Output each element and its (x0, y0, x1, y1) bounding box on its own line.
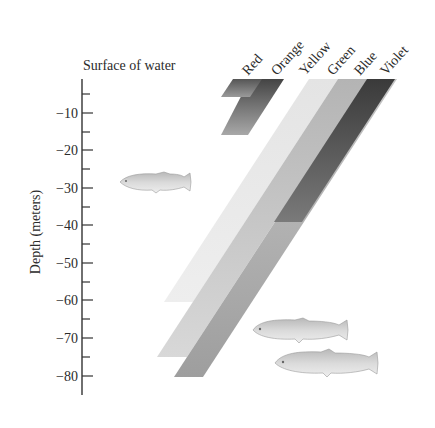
fish-icon (253, 318, 348, 343)
tick-label: −30 (56, 181, 78, 196)
fish-icon (120, 172, 191, 193)
band-label-red: Red (239, 51, 265, 78)
band-green (157, 79, 368, 357)
light-penetration-diagram: Surface of water −10 −20 (0, 0, 435, 428)
surface-label: Surface of water (83, 58, 176, 73)
y-axis-label: Depth (meters) (28, 189, 44, 274)
tick-label: −20 (56, 143, 78, 158)
tick-label: −60 (56, 293, 78, 308)
tick-label: −10 (56, 106, 78, 121)
tick-label: −70 (56, 331, 78, 346)
tick-label: −80 (56, 369, 78, 384)
fish-icon (275, 349, 378, 377)
depth-axis: −10 −20 −30 −40 −50 −60 −70 −80 Depth (m… (28, 79, 93, 395)
tick-label: −50 (56, 256, 78, 271)
band-label-violet: Violet (377, 43, 411, 78)
tick-label: −40 (56, 218, 78, 233)
